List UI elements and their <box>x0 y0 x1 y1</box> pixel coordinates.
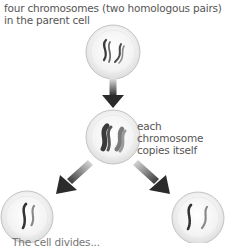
replication-label-line3: copies itself <box>137 144 227 156</box>
replication-label-line1: each <box>137 120 227 132</box>
replicated-cell <box>86 110 140 164</box>
parent-cell <box>86 25 140 79</box>
arrow-down-icon <box>102 78 124 108</box>
replication-label: each chromosome copies itself <box>137 120 227 156</box>
duplicated-chromosome-icon <box>103 126 107 149</box>
arrow-down-left-icon <box>56 160 93 194</box>
bottom-caption-partial: The cell divides... <box>12 236 226 248</box>
arrow-down-right-icon <box>133 160 170 194</box>
replication-label-line2: chromosome <box>137 132 227 144</box>
